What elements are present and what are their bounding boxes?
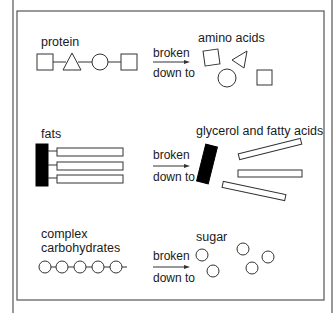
amino-acids-label: amino acids (198, 31, 265, 45)
complex-label: complex (41, 227, 88, 241)
circle-icon (110, 261, 122, 273)
arrow-label-broken: broken (153, 46, 190, 60)
amino-acids-icon (203, 49, 272, 87)
arrow-3: broken down to (153, 249, 195, 285)
circle-icon (237, 243, 249, 255)
fatty-acid-bar-icon (57, 162, 123, 170)
circle-icon (74, 261, 86, 273)
carbohydrates-label: carbohydrates (41, 241, 120, 255)
circle-icon (246, 262, 258, 274)
fat-molecule-icon (36, 144, 123, 186)
digestion-diagram: protein broken down to amino acids fats (0, 0, 336, 313)
arrow-label-down-to: down to (153, 66, 195, 80)
glycerol-bar-icon (36, 144, 48, 186)
square-icon (121, 54, 137, 70)
fatty-acid-bar-icon (57, 148, 123, 156)
glycerol-fatty-acids-label: glycerol and fatty acids (196, 124, 323, 138)
circle-icon (56, 261, 68, 273)
circle-icon (218, 69, 236, 87)
arrow-label-down-to: down to (153, 271, 195, 285)
arrow-label-broken: broken (153, 148, 190, 162)
carbohydrate-chain-icon (39, 261, 127, 273)
square-icon (257, 70, 272, 85)
arrow-head-icon (184, 164, 190, 168)
circle-icon (207, 265, 219, 277)
fatty-acid-bar-icon (222, 181, 286, 200)
sugar-label: sugar (196, 230, 227, 244)
circle-icon (262, 251, 274, 263)
arrow-head-icon (184, 60, 190, 64)
fatty-acid-bar-icon (238, 170, 302, 177)
glycerol-bar-icon (197, 144, 218, 184)
circle-icon (39, 261, 51, 273)
square-icon (203, 49, 220, 66)
carbohydrates-row: complex carbohydrates broken down to sug… (39, 227, 274, 285)
arrow-1: broken down to (153, 46, 195, 80)
fatty-acid-bar-icon (57, 175, 123, 183)
protein-label: protein (41, 35, 79, 49)
arrow-label-broken: broken (153, 249, 190, 263)
arrow-2: broken down to (153, 148, 195, 184)
fats-label: fats (41, 127, 61, 141)
arrow-label-down-to: down to (153, 170, 195, 184)
circle-icon (196, 249, 208, 261)
arrow-head-icon (184, 265, 190, 269)
triangle-icon (232, 51, 247, 68)
square-icon (37, 54, 53, 70)
fatty-acid-bar-icon (238, 138, 302, 159)
protein-row: protein broken down to amino acids (37, 31, 272, 87)
sugars-icon (196, 243, 274, 277)
glycerol-fatty-acids-icon (197, 138, 302, 200)
circle-icon (92, 54, 108, 70)
circle-icon (92, 261, 104, 273)
protein-chain-icon (37, 53, 137, 70)
fats-row: fats broken down to glycerol and fatty a… (36, 124, 323, 201)
